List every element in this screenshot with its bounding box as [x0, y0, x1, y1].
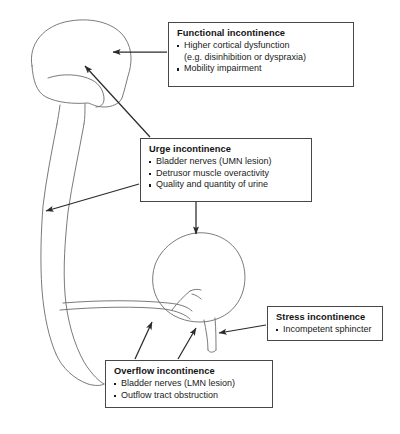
list-item: Quality and quantity of urine — [149, 179, 304, 191]
spinal-cord-left — [41, 124, 57, 354]
urethra-left-wall — [204, 320, 208, 350]
list-item: Bladder nerves (LMN lesion) — [114, 378, 265, 390]
arrow-overflow-to-bladder-neck — [135, 322, 152, 359]
bladder-nerve-twig-a — [190, 289, 201, 291]
bladder-outline — [153, 233, 245, 322]
urethra-outlet — [208, 350, 216, 352]
list-item: Mobility impairment — [177, 63, 346, 75]
spinal-cord-tip — [56, 354, 104, 386]
brainstem-left — [57, 105, 60, 124]
box-title-functional: Functional incontinence — [177, 27, 346, 39]
list-item: Incompetent sphincter — [276, 324, 375, 336]
list-item: Bladder nerves (UMN lesion) — [149, 156, 304, 168]
box-list-urge: Bladder nerves (UMN lesion) Detrusor mus… — [149, 156, 304, 191]
box-list-overflow: Bladder nerves (LMN lesion) Outflow trac… — [114, 378, 265, 401]
arrow-urge-to-spinal-cord — [46, 184, 139, 211]
box-title-overflow: Overflow incontinence — [114, 365, 265, 377]
callout-box-urge-incontinence: Urge incontinence Bladder nerves (UMN le… — [140, 138, 312, 202]
arrow-urge-to-brain — [85, 66, 150, 137]
arrow-overflow-to-urethra — [178, 328, 196, 359]
list-item: Outflow tract obstruction — [114, 390, 265, 402]
callout-box-overflow-incontinence: Overflow incontinence Bladder nerves (LM… — [105, 360, 273, 408]
box-title-urge: Urge incontinence — [149, 143, 304, 155]
urethra-right-wall — [215, 318, 216, 350]
brain-outline — [31, 20, 131, 107]
list-item: Detrusor muscle overactivity — [149, 168, 304, 180]
arrow-stress-to-sphincter — [219, 325, 266, 333]
callout-box-functional-incontinence: Functional incontinence Higher cortical … — [168, 22, 354, 87]
callout-box-stress-incontinence: Stress incontinence Incompetent sphincte… — [267, 306, 383, 341]
incontinence-diagram: Functional incontinence Higher cortical … — [0, 0, 400, 434]
box-title-stress: Stress incontinence — [276, 311, 375, 323]
spinal-cord-right — [64, 124, 104, 384]
brain-temporal-fold — [48, 75, 104, 107]
brainstem-right — [84, 104, 85, 124]
box-list-functional: Higher cortical dysfunction (e.g. disinh… — [177, 40, 346, 75]
list-item: Higher cortical dysfunction — [177, 40, 346, 52]
box-list-stress: Incompetent sphincter — [276, 324, 375, 336]
list-item: (e.g. disinhibition or dyspraxia) — [177, 52, 346, 64]
pelvic-nerve-lower — [60, 307, 190, 319]
bladder-nerve-twig-b — [192, 294, 201, 299]
